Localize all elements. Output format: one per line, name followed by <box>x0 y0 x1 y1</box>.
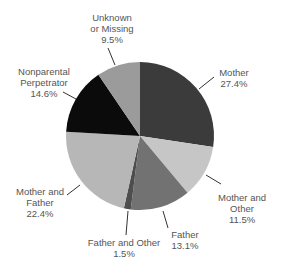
pie-chart <box>0 0 283 269</box>
label-nonparental-perpetrator: Nonparental Perpetrator 14.6% <box>12 66 76 99</box>
label-mother: Mother 27.4% <box>206 67 262 89</box>
label-father: Father 13.1% <box>164 229 206 251</box>
label-unknown-or-missing: Unknown or Missing 9.5% <box>84 12 140 45</box>
leader-line-mother-other <box>206 175 221 184</box>
pie-slices <box>66 62 214 210</box>
leader-line-unknown <box>108 48 115 65</box>
label-mother-and-father: Mother and Father 22.4% <box>12 186 68 219</box>
leader-line-father <box>163 211 168 228</box>
pie-slice-mother <box>140 62 214 147</box>
leader-line-father-other <box>126 211 128 235</box>
label-father-and-other: Father and Other 1.5% <box>82 237 166 259</box>
label-mother-and-other: Mother and Other 11.5% <box>211 192 273 225</box>
leader-line-mother-father <box>67 185 80 195</box>
